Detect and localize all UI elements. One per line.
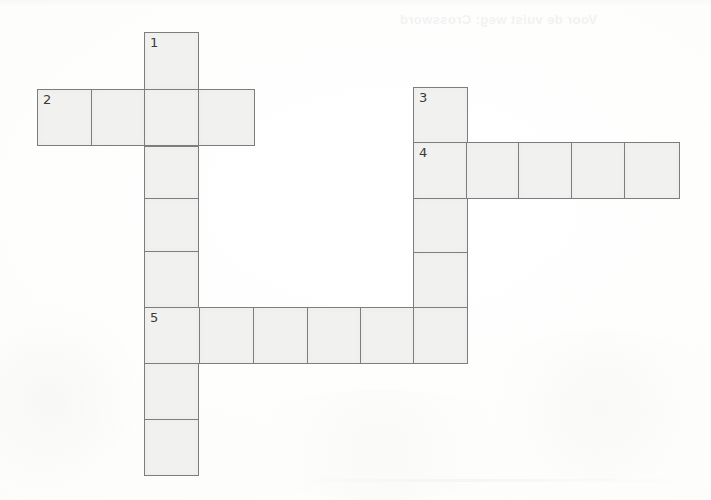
crossword-cell[interactable] bbox=[307, 307, 361, 364]
crossword-cell[interactable] bbox=[144, 419, 199, 476]
crossword-cell[interactable] bbox=[518, 142, 572, 199]
crossword-cell[interactable] bbox=[91, 89, 145, 146]
cell-number: 4 bbox=[419, 145, 427, 160]
crossword-cell[interactable] bbox=[144, 146, 199, 199]
cell-number: 5 bbox=[150, 310, 158, 325]
crossword-cell-numbered-1[interactable]: 1 bbox=[144, 32, 199, 90]
cell-number: 2 bbox=[43, 92, 51, 107]
puzzle-page: Voor de vuist weg: Crossword 12345 bbox=[0, 0, 711, 500]
crossword-cell[interactable] bbox=[413, 198, 468, 253]
crossword-cell-numbered-4[interactable]: 4 bbox=[413, 142, 468, 199]
crossword-cell[interactable] bbox=[144, 89, 199, 146]
crossword-cell[interactable] bbox=[466, 142, 519, 199]
crossword-cell-numbered-3[interactable]: 3 bbox=[413, 87, 468, 143]
crossword-cell[interactable] bbox=[144, 251, 199, 308]
cell-number: 1 bbox=[150, 35, 158, 50]
crossword-cell[interactable] bbox=[199, 307, 254, 364]
crossword-cell[interactable] bbox=[144, 363, 199, 420]
crossword-cell[interactable] bbox=[413, 307, 468, 364]
crossword-cell[interactable] bbox=[198, 89, 255, 146]
crossword-cell[interactable] bbox=[571, 142, 625, 199]
crossword-cell[interactable] bbox=[253, 307, 308, 364]
cell-number: 3 bbox=[419, 90, 427, 105]
crossword-cell[interactable] bbox=[624, 142, 680, 199]
crossword-grid: 12345 bbox=[0, 0, 711, 500]
crossword-cell[interactable] bbox=[360, 307, 414, 364]
crossword-cell-numbered-5[interactable]: 5 bbox=[144, 307, 200, 364]
crossword-cell[interactable] bbox=[413, 252, 468, 309]
crossword-cell[interactable] bbox=[144, 198, 199, 252]
crossword-cell-numbered-2[interactable]: 2 bbox=[37, 89, 92, 146]
